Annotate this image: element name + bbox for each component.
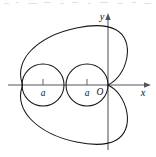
cardioid-figure: y x O a a: [0, 0, 156, 157]
radius-label-outer-a: a: [41, 88, 46, 98]
origin-label: O: [97, 87, 104, 97]
x-axis-label: x: [140, 87, 146, 98]
y-axis-label: y: [99, 11, 105, 22]
y-axis-arrowhead: [105, 13, 110, 20]
figure-canvas: y x O a a: [0, 0, 156, 157]
radius-label-inner-a: a: [85, 88, 90, 98]
